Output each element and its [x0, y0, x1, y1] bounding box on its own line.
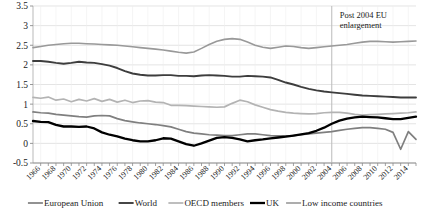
- legend-label-world: World: [135, 198, 158, 208]
- x-axis-tick-label: 1990: [208, 164, 226, 182]
- x-axis-tick-label: 2010: [361, 164, 379, 182]
- x-axis-tick-label: 2008: [346, 164, 364, 182]
- x-axis-tick-label: 1996: [254, 164, 272, 182]
- y-axis-tick-label: 3.5: [16, 1, 28, 11]
- annotation-text-line2: enlargement: [340, 20, 382, 30]
- x-axis-tick-label: 2004: [315, 164, 333, 182]
- x-axis-tick-label: 2006: [331, 164, 349, 182]
- line-chart: 3.532.521.510.50-0.519661968197019721974…: [0, 0, 421, 221]
- x-axis-tick-label: 1970: [55, 164, 73, 182]
- y-axis-tick-label: 1.5: [16, 80, 28, 90]
- x-axis-tick-label: 2012: [377, 164, 395, 182]
- y-axis-tick-label: 3: [23, 21, 28, 31]
- x-axis-tick-label: 1988: [193, 164, 211, 182]
- x-axis-tick-label: 2000: [285, 164, 303, 182]
- y-axis-tick-label: 0.5: [16, 119, 28, 129]
- y-axis-tick-label: 1: [23, 100, 28, 110]
- x-axis-tick-label: 1982: [147, 164, 165, 182]
- x-axis-tick-label: 1998: [270, 164, 288, 182]
- x-axis-tick-label: 1972: [70, 164, 88, 182]
- x-axis-tick-label: 1994: [239, 164, 257, 182]
- legend-label-european-union: European Union: [44, 198, 104, 208]
- x-axis-tick-label: 1992: [224, 164, 242, 182]
- y-axis-tick-label: 2: [23, 60, 28, 70]
- legend-label-uk: UK: [266, 198, 279, 208]
- legend-label-oecd-members: OECD members: [184, 198, 244, 208]
- x-axis-tick-label: 1974: [86, 164, 104, 182]
- chart-svg: 3.532.521.510.50-0.519661968197019721974…: [0, 0, 421, 221]
- x-axis-tick-label: 2002: [300, 164, 318, 182]
- x-axis-tick-label: 1978: [116, 164, 134, 182]
- x-axis-tick-label: 1984: [162, 164, 180, 182]
- x-axis-tick-label: 1986: [178, 164, 196, 182]
- y-axis-tick-label: 2.5: [16, 41, 28, 51]
- y-axis-tick-label: -0.5: [13, 158, 28, 168]
- x-axis-tick-label: 1980: [132, 164, 150, 182]
- x-axis-tick-label: 1968: [40, 164, 58, 182]
- x-axis-tick-label: 2014: [392, 164, 410, 182]
- legend-label-low-income-countries: Low income countries: [302, 198, 383, 208]
- annotation-text-line1: Post 2004 EU: [340, 10, 387, 20]
- y-axis-tick-label: 0: [23, 139, 28, 149]
- x-axis-tick-label: 1976: [101, 164, 119, 182]
